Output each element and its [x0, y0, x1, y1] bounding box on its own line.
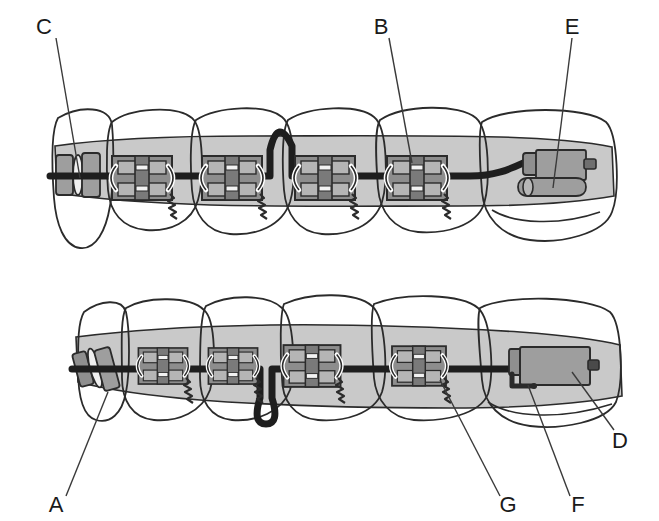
upper-bracket-1 — [111, 156, 173, 200]
label-d: D — [612, 428, 628, 453]
label-b: B — [374, 14, 389, 39]
canvas-background — [0, 0, 659, 521]
lower-bracket-4 — [391, 346, 447, 386]
lower-molar-band-right — [509, 347, 599, 389]
lower-bracket-1 — [138, 348, 189, 384]
upper-bracket-2 — [201, 156, 263, 200]
dental-diagram-svg: C B E A G F D — [0, 0, 659, 521]
figure-canvas: C B E A G F D — [0, 0, 659, 521]
label-c: C — [36, 14, 52, 39]
lower-arch — [72, 295, 622, 427]
lower-bracket-2 — [208, 348, 259, 384]
label-e: E — [565, 14, 580, 39]
label-g: G — [499, 492, 516, 517]
lower-bracket-3 — [283, 345, 342, 387]
upper-bracket-4 — [386, 156, 448, 200]
label-a: A — [49, 492, 64, 517]
label-f: F — [571, 492, 584, 517]
upper-arch — [50, 108, 617, 248]
upper-bracket-3 — [294, 156, 356, 200]
